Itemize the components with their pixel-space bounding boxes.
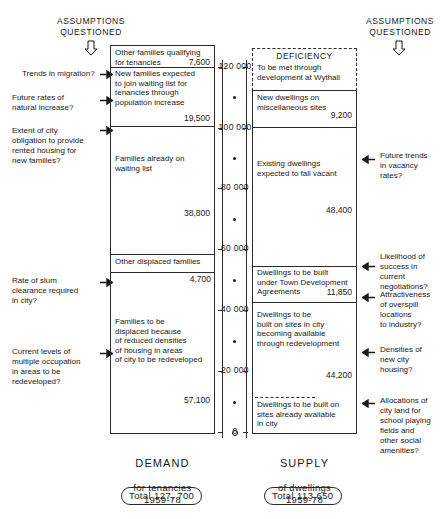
demand-total: Total 127, 700 bbox=[121, 487, 202, 505]
deficiency-title: DEFICIENCY bbox=[253, 51, 356, 61]
demand-assumption-4: Current levels of multiple occupation in… bbox=[12, 347, 100, 387]
arrow-right-icon bbox=[362, 155, 375, 164]
axis-minor-dot bbox=[233, 157, 236, 160]
demand-segment-value: 57,100 bbox=[184, 395, 210, 405]
axis-minor-dot bbox=[233, 218, 236, 221]
supply-segment-value: 44,200 bbox=[326, 370, 352, 380]
demand-segment-value: 7,600 bbox=[189, 57, 210, 67]
supply-total: Total 113,650 bbox=[264, 487, 342, 505]
arrow-down-icon bbox=[390, 40, 408, 56]
supply-assumption-0: Future trends in vacancy rates? bbox=[380, 151, 442, 181]
demand-segment-value: 19,500 bbox=[184, 113, 210, 123]
demand-segment-waiting-list: Families already on waiting list 38,800 bbox=[110, 127, 215, 255]
demand-assumption-1: Future rates of natural increase? bbox=[12, 93, 100, 113]
supply-segment-value: 11,850 bbox=[327, 287, 352, 297]
demand-segment-new-families: New families expected to join waiting li… bbox=[110, 67, 215, 127]
supply-segment-miscellaneous-sites: New dwellings on miscellaneous sites 9,2… bbox=[252, 90, 357, 128]
demand-segment-label: Families already on waiting list bbox=[115, 154, 211, 173]
figure-canvas: ASSUMPTIONS QUESTIONED ASSUMPTIONS QUEST… bbox=[0, 0, 442, 519]
arrow-right-icon bbox=[362, 399, 375, 408]
demand-segment-value: 38,800 bbox=[184, 208, 210, 218]
axis-tick-0 bbox=[218, 432, 223, 433]
supply-segment-label: To be met through development at Wythall bbox=[257, 63, 353, 82]
demand-segment-label: Other displaced families bbox=[115, 257, 211, 267]
supply-assumption-3: Densities of new city housing? bbox=[380, 345, 442, 375]
demand-assumption-3: Rate of slum clearance required in city? bbox=[12, 276, 100, 306]
supply-caption-title: SUPPLY bbox=[252, 457, 357, 470]
right-assumptions-heading: ASSUMPTIONS QUESTIONED bbox=[358, 16, 442, 37]
supply-segment-label: Existing dwellings expected to fall vaca… bbox=[257, 159, 353, 178]
supply-segment-value: 48,400 bbox=[326, 205, 352, 215]
axis-minor-dot bbox=[233, 340, 236, 343]
axis-tick-label-40000: 40 000 bbox=[215, 305, 255, 314]
axis-tick-label-20000: 20 000 bbox=[215, 366, 255, 375]
demand-segment-label: New families expected to join waiting li… bbox=[115, 69, 211, 107]
axis-tick-0-r bbox=[243, 432, 248, 433]
supply-assumption-4: Allocations of city land for school play… bbox=[380, 396, 442, 456]
demand-segment-other-displaced: Other displaced families bbox=[110, 255, 215, 273]
supply-assumption-2: Attractiveness of overspill locations to… bbox=[380, 290, 442, 330]
supply-assumption-1: Likelihood of success in current negotia… bbox=[380, 252, 442, 292]
demand-caption-title: DEMAND bbox=[110, 457, 215, 470]
demand-assumption-2: Extent of city obligation to provide ren… bbox=[12, 126, 100, 166]
arrow-down-icon bbox=[82, 40, 100, 56]
arrow-right-icon bbox=[362, 348, 375, 357]
axis-minor-dot bbox=[233, 96, 236, 99]
supply-segment-value: 9,200 bbox=[331, 110, 352, 120]
axis-tick-label-80000: 80 000 bbox=[215, 183, 255, 192]
demand-segment-other-families: Other families qualifying for tenancies … bbox=[110, 45, 215, 68]
axis-minor-dot bbox=[233, 279, 236, 282]
demand-segment-label: Families to be displaced because of redu… bbox=[115, 317, 211, 365]
supply-segment-existing-vacant: Existing dwellings expected to fall vaca… bbox=[252, 127, 357, 267]
axis-minor-dot bbox=[233, 401, 236, 404]
axis-origin-dot bbox=[232, 430, 238, 436]
supply-segment-label: Dwellings to be built on sites already a… bbox=[257, 400, 353, 429]
demand-segment-displaced-redevelopment: Families to be displaced because of redu… bbox=[110, 273, 215, 434]
demand-assumption-0: Trends in migration? bbox=[22, 69, 100, 79]
supply-segment-deficiency: DEFICIENCY To be met through development… bbox=[252, 48, 357, 91]
arrow-right-icon bbox=[362, 262, 375, 271]
axis-tick-label-120000: 120 000 bbox=[215, 62, 255, 71]
supply-segment-town-development: Dwellings to be built under Town Develop… bbox=[252, 266, 357, 303]
supply-inner-divider bbox=[255, 397, 315, 398]
axis-tick-label-60000: 60 000 bbox=[215, 244, 255, 253]
supply-segment-redevelopment-sites: Dwellings to be built on sites in city b… bbox=[252, 302, 357, 434]
left-assumptions-heading: ASSUMPTIONS QUESTIONED bbox=[36, 16, 146, 37]
supply-segment-label: Dwellings to be built on sites in city b… bbox=[257, 310, 353, 348]
axis-tick-label-100000: 100 000 bbox=[215, 123, 255, 132]
arrow-right-icon bbox=[362, 293, 375, 302]
